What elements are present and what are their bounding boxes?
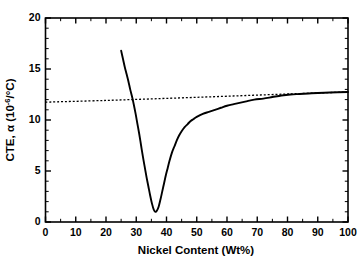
y-tick-label: 0 — [35, 215, 41, 227]
y-axis-title: CTE, α (10-6/°C) — [3, 78, 16, 161]
y-tick-label: 20 — [29, 11, 41, 23]
x-tick-label: 80 — [282, 226, 294, 238]
x-tick-label: 70 — [251, 226, 263, 238]
y-tick-label: 15 — [29, 62, 41, 74]
x-tick-label: 10 — [70, 226, 82, 238]
cte-vs-nickel-content-chart: 0102030405060708090100 05101520 Nickel C… — [0, 0, 363, 265]
x-tick-label: 30 — [130, 226, 142, 238]
x-tick-label: 90 — [312, 226, 324, 238]
x-axis-title: Nickel Content (Wt%) — [138, 244, 254, 256]
x-tick-label: 20 — [100, 226, 112, 238]
x-tick-label: 100 — [339, 226, 357, 238]
x-tick-label: 60 — [221, 226, 233, 238]
x-tick-label: 40 — [161, 226, 173, 238]
chart-figure: 0102030405060708090100 05101520 Nickel C… — [0, 0, 363, 265]
x-tick-label: 0 — [43, 226, 49, 238]
y-tick-label: 10 — [29, 113, 41, 125]
y-tick-label: 5 — [35, 164, 41, 176]
x-tick-label: 50 — [191, 226, 203, 238]
svg-text:CTE, α (10-6/°C): CTE, α (10-6/°C) — [3, 78, 16, 161]
